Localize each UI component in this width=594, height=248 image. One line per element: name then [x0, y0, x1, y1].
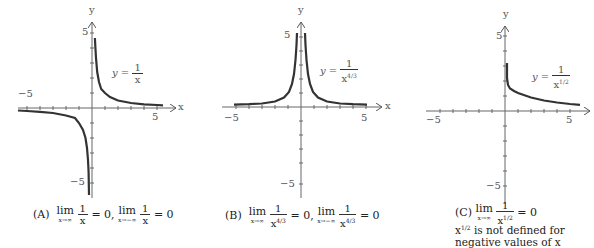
panel-c-tick-ypos: 5: [496, 30, 502, 41]
panel-c-tick-xneg: −5: [426, 114, 441, 125]
panel-c-tick-yneg: −5: [486, 180, 501, 191]
panel-a-x-label: x: [178, 101, 184, 112]
panel-a-y-label: y: [89, 4, 95, 15]
panel-b-tick-ypos: 5: [284, 29, 290, 40]
panel-b-plot: [222, 22, 382, 198]
panel-b-tick-xpos: 5: [361, 112, 367, 123]
panel-c-tick-xpos: 5: [566, 114, 572, 125]
panel-a-tick-xpos: 5: [152, 111, 158, 122]
panel-c-function-label: y = 1x1/2: [532, 64, 570, 90]
panel-c-note: x1/2 is not defined for negative values …: [455, 222, 565, 248]
panel-b-curve-left: [234, 33, 297, 105]
panel-b-function-label: y = 1x4/3: [320, 58, 358, 84]
panel-a-tick-ypos: 5: [82, 26, 88, 37]
panel-a-tick-yneg: −5: [70, 176, 85, 187]
panel-b-x-label: x: [385, 100, 391, 111]
panel-b-tick-xneg: −5: [224, 112, 239, 123]
panel-b-y-label: y: [298, 4, 304, 15]
panel-b-tick-yneg: −5: [280, 178, 295, 189]
panel-a-tick-xneg: −5: [18, 88, 33, 99]
panel-a-function-label: y = 1x: [112, 62, 143, 85]
panel-a-caption: (A) limx→∞ 1x = 0, limx→−∞ 1x = 0: [33, 203, 174, 226]
panel-b-caption: (B) limx→∞ 1x4/3 = 0, limx→−∞ 1x4/3 = 0: [225, 203, 380, 229]
panel-c-y-label: y: [503, 8, 509, 19]
panel-a-plot: [18, 22, 176, 198]
